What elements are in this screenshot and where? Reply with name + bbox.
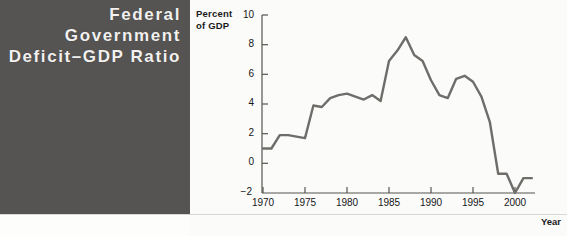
bottom-rule (0, 214, 567, 215)
figure-root: Federal Government Deficit–GDP Ratio Per… (0, 0, 567, 236)
plot-panel: Percent of GDP Year 10 8 6 4 2 0 −2 1970… (190, 0, 567, 236)
title-line-2: Government (1, 25, 181, 46)
title-panel: Federal Government Deficit–GDP Ratio (0, 0, 190, 214)
x-axis-ticks (263, 187, 515, 193)
title-line-1: Federal (1, 4, 181, 25)
chart-svg (190, 0, 567, 236)
y-axis-ticks (262, 15, 268, 163)
deficit-gdp-line (263, 37, 532, 193)
title-line-3: Deficit–GDP Ratio (1, 46, 181, 67)
chart-title: Federal Government Deficit–GDP Ratio (1, 4, 181, 67)
